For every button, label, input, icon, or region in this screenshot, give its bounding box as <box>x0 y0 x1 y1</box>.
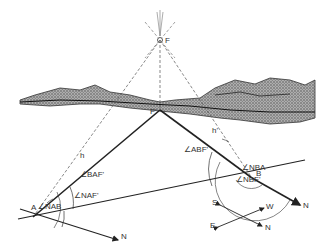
label-h-prime: h' <box>212 127 218 135</box>
compass-W: W <box>266 203 274 211</box>
label-angle-NBF: ∠NBF' <box>236 176 261 184</box>
label-A: A <box>31 204 36 212</box>
label-angle-ABF: ∠ABF' <box>184 146 208 154</box>
label-h: h <box>80 152 84 160</box>
label-angle-NAF: ∠NAF' <box>74 192 99 200</box>
label-north-A: N <box>121 233 127 241</box>
label-F-prime: F' <box>150 108 156 116</box>
compass-S: S <box>212 199 217 207</box>
label-north-B: N <box>303 202 309 210</box>
compass-s-n-line <box>220 205 262 226</box>
terrain-band <box>20 78 315 124</box>
compass-N: N <box>265 224 271 232</box>
label-angle-NBA: ∠NBA <box>242 164 265 172</box>
label-angle-NAB: ∠NAB <box>38 203 61 211</box>
label-angle-BAF: ∠BAF' <box>80 171 104 179</box>
compass-e-w-line <box>218 208 264 227</box>
compass-E: E <box>210 222 215 230</box>
label-F: F <box>165 37 170 45</box>
